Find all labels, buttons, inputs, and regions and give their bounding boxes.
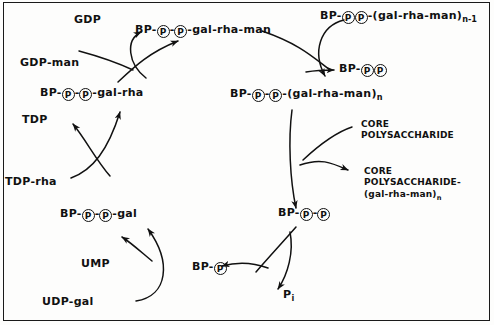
label-bp-pp-gal-rha-man-n: BP-P-P-(gal-rha-man)n	[230, 88, 383, 103]
phosphate-circle-icon: P	[214, 262, 227, 275]
bp-subscript: n	[377, 92, 383, 102]
pathway-arrows-canvas	[0, 0, 494, 325]
phosphate-circle-icon: P	[99, 209, 112, 222]
label-gdp: GDP	[74, 14, 101, 27]
bp-suffix: -(gal-rha-man)	[282, 87, 376, 100]
bp-prefix: BP-	[339, 62, 361, 75]
label-udp-gal: UDP-gal	[42, 296, 94, 309]
label-gdp-man: GDP-man	[20, 57, 79, 70]
phosphate-circle-icon: P	[157, 25, 170, 38]
phosphate-circle-icon: P	[300, 208, 313, 221]
bp-prefix: BP-	[192, 260, 214, 273]
bp-subscript: n-1	[462, 14, 477, 24]
arrow-gdp-man-in	[79, 51, 133, 70]
arrow-core-in	[303, 127, 352, 160]
phosphate-circle-icon: P	[361, 64, 374, 77]
core-product-line-3: (gal-rha-man)n	[364, 189, 461, 202]
phosphate-circle-icon: P	[252, 89, 265, 102]
arrow-release-bp-pp	[306, 70, 334, 72]
core-product-line-2: POLYSACCHARIDE-	[364, 177, 461, 188]
phosphate-circle-icon: P	[174, 25, 187, 38]
label-pi: Pi	[283, 289, 294, 304]
label-bp-pp-released: BP-PP	[339, 63, 387, 77]
arrow-tdp-rha-in	[71, 112, 120, 178]
core-product-subscript: n	[437, 193, 442, 201]
bp-prefix: BP-	[60, 207, 82, 220]
phosphate-circle-icon: P	[79, 88, 92, 101]
label-bp-pp-gal: BP-P-P-gal	[60, 208, 137, 222]
phosphate-circle-icon: P	[62, 88, 75, 101]
bp-suffix: -gal	[112, 207, 137, 220]
label-core-polysaccharide-product: CORE POLYSACCHARIDE- (gal-rha-man)n	[364, 166, 461, 202]
arrow-mannosylation	[118, 41, 178, 82]
phosphate-circle-icon: P	[317, 208, 330, 221]
bp-suffix: -(gal-rha-man)	[368, 9, 462, 22]
phosphate-circle-icon: P	[355, 11, 368, 24]
label-bp-pp-gal-rha-man: BP-P-P-gal-rha-man	[135, 24, 271, 38]
label-bp-pp-gal-rha-man-n-minus-1: BP-PP-(gal-rha-man)n-1	[320, 10, 477, 25]
label-core-polysaccharide: CORE POLYSACCHARIDE	[361, 119, 454, 142]
arrow-to-gdp	[131, 32, 146, 78]
core-product-line-1: CORE	[364, 166, 461, 177]
arrow-to-tdp	[73, 124, 110, 176]
label-pi-subscript: i	[291, 293, 294, 303]
bp-prefix: BP-	[278, 206, 300, 219]
label-bp-pp-center: BP-P-P	[278, 207, 330, 221]
arrow-udp-gal-in	[136, 229, 163, 301]
bp-prefix: BP-	[230, 87, 252, 100]
bp-suffix: -gal-rha-man	[187, 23, 271, 36]
arrow-ligation	[290, 110, 296, 208]
label-tdp: TDP	[22, 114, 48, 127]
label-bp-pp-gal-rha: BP-P-P-gal-rha	[40, 87, 144, 101]
arrow-to-core-product	[300, 161, 348, 170]
bp-prefix: BP-	[135, 23, 157, 36]
label-bp-p: BP-P	[192, 261, 227, 275]
pathway-figure: GDP GDP-man TDP TDP-rha UMP UDP-gal Pi B…	[0, 0, 494, 325]
phosphate-circle-icon: P	[269, 89, 282, 102]
phosphate-circle-icon: P	[342, 11, 355, 24]
bp-prefix: BP-	[40, 86, 62, 99]
phosphate-circle-icon: P	[82, 209, 95, 222]
label-tdp-rha: TDP-rha	[5, 176, 57, 189]
core-line-2: POLYSACCHARIDE	[361, 130, 454, 141]
core-line-1: CORE	[361, 119, 454, 130]
arrow-to-ump	[122, 237, 152, 261]
phosphate-circle-icon: P	[374, 64, 387, 77]
label-ump: UMP	[81, 258, 110, 271]
bp-suffix: -gal-rha	[92, 86, 143, 99]
core-product-repeat: (gal-rha-man)	[364, 189, 437, 199]
bp-prefix: BP-	[320, 9, 342, 22]
